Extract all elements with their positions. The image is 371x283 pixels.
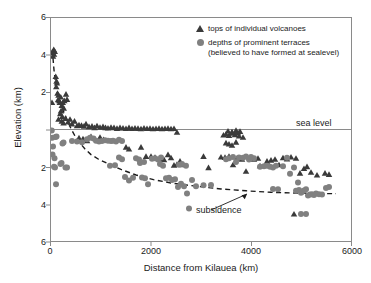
legend: tops of individual volcanoes depths of p… [192,24,339,62]
triangle-marker-icon [192,24,208,32]
legend-item-terraces: depths of prominent terraces (believed t… [192,38,339,58]
circle-marker-icon [192,38,208,46]
legend-label-volcanoes: tops of individual volcanoes [208,24,306,34]
legend-label-terraces: depths of prominent terraces [208,38,310,47]
sea-level-annotation: sea level [296,118,332,128]
legend-label-terraces-sub: (believed to have formed at sealevel) [208,48,339,57]
figure-container: 6 4 2 2 4 6 0 2000 4000 6000 Elevation (… [0,0,371,283]
subsidence-annotation: subsidence [196,205,242,215]
legend-item-volcanoes: tops of individual volcanoes [192,24,339,34]
